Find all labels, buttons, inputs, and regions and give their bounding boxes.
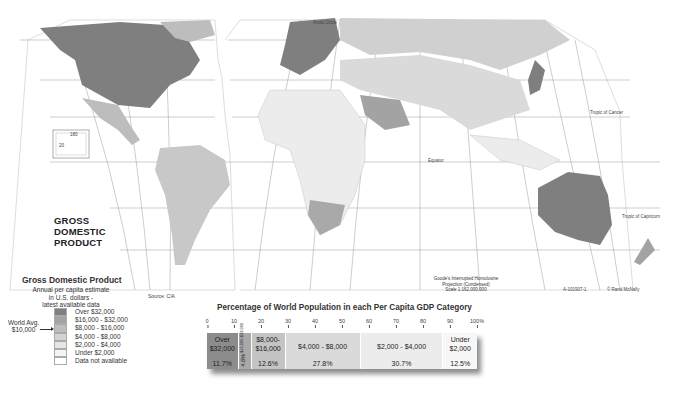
swatch-no-data	[54, 357, 67, 365]
map-title-line: PRODUCT	[54, 237, 106, 248]
segment-label: Under $2,000	[443, 336, 476, 353]
segment-label-line: $32,000	[207, 345, 238, 354]
stacked-bar: Over $32,000 11.7% $16,000-$32,000 4.8% …	[207, 333, 477, 369]
legend-item: $4,000 - $8,000	[54, 333, 194, 341]
world-average-label: World Avg. $10,000	[8, 319, 39, 333]
chart-title: Percentage of World Population in each P…	[217, 303, 472, 312]
x-tick: 0	[205, 318, 208, 324]
segment-label: $4,000 - $8,000	[286, 343, 360, 352]
x-tick: 90	[447, 318, 453, 324]
x-tick: 50	[339, 318, 345, 324]
segment-2000-4000: $2,000 - $4,000 30.7%	[361, 333, 444, 369]
arrow-right-icon	[40, 329, 52, 330]
legend-subtitle-line: Annual per capita estimate	[28, 286, 114, 294]
map-title-line: DOMESTIC	[54, 226, 106, 237]
tropic-of-capricorn-label: Tropic of Capricorn	[622, 214, 660, 219]
segment-under-2000: Under $2,000 12.5%	[443, 333, 476, 369]
segment-label-line: $32,000	[239, 323, 244, 337]
legend-item: Under $2,000	[54, 349, 194, 357]
legend-item-label: $16,000 - $32,000	[75, 316, 128, 324]
segment-label: $2,000 - $4,000	[361, 343, 443, 352]
x-axis: 0 10 20 30 40 50 60 70 80 90 100%	[207, 318, 477, 330]
legend-swatches: Over $32,000 $16,000 - $32,000 $8,000 - …	[54, 308, 194, 365]
legend-item-label: $2,000 - $4,000	[75, 341, 121, 349]
map-graphic	[0, 0, 677, 300]
inset-lon-label: 180	[70, 132, 78, 137]
segment-16000-32000: $16,000-$32,000 4.8%	[239, 333, 252, 369]
segment-label: Over $32,000	[207, 336, 238, 353]
legend-item: $2,000 - $4,000	[54, 341, 194, 349]
map-code: A-101907-1	[563, 287, 587, 292]
legend-item: $8,000 - $16,000	[54, 324, 194, 332]
tropic-of-cancer-label: Tropic of Cancer	[590, 110, 623, 115]
segment-label-line: Over	[207, 336, 238, 345]
legend-item-label: Data not available	[75, 357, 127, 365]
x-tick: 80	[420, 318, 426, 324]
map-title-line: GROSS	[54, 215, 106, 226]
source-label: Source: CIA	[148, 293, 175, 299]
projection-line: Goode's Interrupted Homolosine	[420, 276, 512, 282]
legend-item-label: Under $2,000	[75, 349, 114, 357]
legend-item-label: $4,000 - $8,000	[75, 333, 121, 341]
legend-item-label: Over $32,000	[75, 308, 114, 316]
legend-subtitle: Annual per capita estimate in U.S. dolla…	[28, 286, 114, 309]
x-tick: 40	[312, 318, 318, 324]
world-gdp-map: GROSS DOMESTIC PRODUCT Arctic Circle Tro…	[0, 0, 677, 300]
x-tick: 70	[393, 318, 399, 324]
legend-subtitle-line: in U.S. dollars -	[28, 294, 114, 302]
copyright: © Rand McNally	[607, 287, 640, 292]
swatch-8000-16000	[54, 324, 67, 332]
segment-over-32000: Over $32,000 11.7%	[207, 333, 239, 369]
population-bar-chart: Percentage of World Population in each P…	[205, 303, 485, 383]
segment-4000-8000: $4,000 - $8,000 27.8%	[286, 333, 361, 369]
segment-label-vertical: $16,000-$32,000	[240, 335, 244, 353]
x-tick: 20	[258, 318, 264, 324]
legend-item-label: $8,000 - $16,000	[75, 324, 124, 332]
segment-percent: 4.8%	[240, 354, 246, 367]
segment-percent: 30.7%	[361, 360, 443, 367]
swatch-4000-8000	[54, 333, 67, 341]
segment-8000-16000: $8,000- $16,000 12.6%	[252, 333, 286, 369]
world-avg-line: World Avg.	[8, 319, 39, 326]
x-tick: 100%	[470, 318, 484, 324]
segment-percent: 11.7%	[207, 360, 238, 367]
segment-label-line: $2,000	[443, 345, 476, 354]
projection-line: Scale 1:162,000,000	[420, 287, 512, 293]
arctic-circle-label: Arctic Circle	[313, 20, 337, 25]
x-tick: 10	[231, 318, 237, 324]
equator-label: Equator	[428, 158, 444, 163]
swatch-16000-32000	[54, 316, 67, 324]
projection-note: Goode's Interrupted Homolosine Projectio…	[420, 276, 512, 293]
segment-label: $8,000- $16,000	[252, 336, 285, 353]
segment-percent: 27.8%	[286, 360, 360, 367]
segment-label-line: $8,000-	[252, 336, 285, 345]
swatch-under-2000	[54, 349, 67, 357]
inset-lat-label: 20	[59, 143, 64, 148]
segment-percent: 12.6%	[252, 360, 285, 367]
legend-title: Gross Domestic Product	[22, 275, 122, 285]
legend-item: $16,000 - $32,000	[54, 316, 194, 324]
map-title: GROSS DOMESTIC PRODUCT	[54, 215, 106, 248]
swatch-over-32000	[54, 308, 67, 316]
segment-label-line: Under	[443, 336, 476, 345]
x-tick: 60	[366, 318, 372, 324]
legend-item: Over $32,000	[54, 308, 194, 316]
swatch-2000-4000	[54, 341, 67, 349]
segment-label-line: $16,000-	[239, 337, 244, 353]
x-tick: 30	[285, 318, 291, 324]
legend-item: Data not available	[54, 357, 194, 365]
segment-label-line: $16,000	[252, 345, 285, 354]
world-avg-line: $10,000	[8, 326, 39, 333]
segment-percent: 12.5%	[443, 360, 476, 367]
